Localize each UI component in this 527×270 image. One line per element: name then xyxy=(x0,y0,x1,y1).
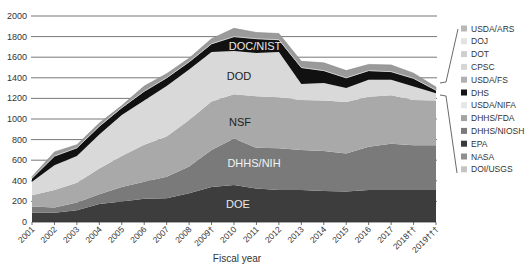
legend-swatch xyxy=(461,77,467,83)
y-tick-label: 200 xyxy=(12,196,27,206)
x-tick-label: 2002 xyxy=(38,224,59,245)
legend-item-usda-ars: USDA/ARS xyxy=(461,24,515,34)
legend-item-usda-nifa: USDA/NIFA xyxy=(461,100,516,110)
legend-swatch xyxy=(461,141,467,147)
area-label-doc-nist: DOC/NIST xyxy=(229,40,282,52)
legend-item-doj: DOJ xyxy=(461,36,488,46)
legend-bracket xyxy=(440,29,458,173)
legend-swatch xyxy=(461,64,467,70)
y-tick-label: 800 xyxy=(12,135,27,145)
legend-label: USDA/FS xyxy=(471,75,508,85)
legend: USDA/ARSDOJDOTCPSCUSDA/FSDHSUSDA/NIFADHH… xyxy=(461,24,524,175)
legend-label: DOI/USGS xyxy=(471,164,513,174)
legend-item-cpsc: CPSC xyxy=(461,62,495,72)
legend-item-dhhs-fda: DHHS/FDA xyxy=(461,113,515,123)
legend-label: DOT xyxy=(471,49,489,59)
legend-item-dhs: DHS xyxy=(461,88,489,98)
legend-item-nasa: NASA xyxy=(461,152,494,162)
x-tick-label: 2006 xyxy=(128,224,149,245)
x-tick-label: 2001 xyxy=(16,224,37,245)
legend-swatch xyxy=(461,38,467,44)
x-tick-label: 2013 xyxy=(285,224,306,245)
y-tick-label: 2000 xyxy=(7,11,27,21)
y-tick-label: 1800 xyxy=(7,32,27,42)
x-tick-label: 2009† xyxy=(192,224,216,248)
legend-label: DOJ xyxy=(471,36,488,46)
y-tick-label: 0 xyxy=(22,217,27,227)
y-axis: 0200400600800100012001400160018002000 xyxy=(7,11,27,227)
area-label-dhhs-nih: DHHS/NIH xyxy=(227,157,280,169)
legend-swatch xyxy=(461,154,467,160)
legend-item-dhhs-niosh: DHHS/NIOSH xyxy=(461,126,524,136)
x-tick-label: 2005 xyxy=(106,224,127,245)
legend-item-usda-fs: USDA/FS xyxy=(461,75,508,85)
legend-label: USDA/NIFA xyxy=(471,100,516,110)
area-label-dod: DOD xyxy=(227,70,252,82)
x-tick-label: 2014 xyxy=(308,224,329,245)
legend-item-epa: EPA xyxy=(461,139,488,149)
legend-label: NASA xyxy=(471,152,494,162)
y-tick-label: 1600 xyxy=(7,52,27,62)
x-tick-label: 2008 xyxy=(173,224,194,245)
legend-swatch xyxy=(461,166,467,172)
y-tick-label: 1400 xyxy=(7,73,27,83)
legend-swatch xyxy=(461,90,467,96)
x-tick-label: 2016 xyxy=(353,224,374,245)
x-tick-label: 2012 xyxy=(263,224,284,245)
legend-swatch xyxy=(461,128,467,134)
legend-label: EPA xyxy=(471,139,488,149)
area-label-nsf: NSF xyxy=(229,116,251,128)
legend-label: USDA/ARS xyxy=(471,24,515,34)
x-tick-label: 2010 xyxy=(218,224,239,245)
legend-item-doi-usgs: DOI/USGS xyxy=(461,164,513,174)
legend-swatch xyxy=(461,102,467,108)
legend-label: DHS xyxy=(471,88,489,98)
y-tick-label: 1200 xyxy=(7,93,27,103)
x-tick-label: 2004 xyxy=(83,224,104,245)
y-tick-label: 400 xyxy=(12,176,27,186)
area-label-doe: DOE xyxy=(226,198,250,210)
legend-item-dot: DOT xyxy=(461,49,489,59)
legend-label: DHHS/FDA xyxy=(471,113,515,123)
y-tick-label: 1000 xyxy=(7,114,27,124)
legend-swatch xyxy=(461,26,467,32)
x-axis-title: Fiscal year xyxy=(213,253,262,264)
y-tick-label: 600 xyxy=(12,155,27,165)
legend-swatch xyxy=(461,51,467,57)
x-tick-label: 2003 xyxy=(61,224,82,245)
stacked-area-chart: DOC/NISTDODNSFDHHS/NIHDOE 02004006008001… xyxy=(0,0,527,270)
legend-label: DHHS/NIOSH xyxy=(471,126,524,136)
x-axis: 200120022003200420052006200720082009†201… xyxy=(16,222,441,255)
legend-label: CPSC xyxy=(471,62,495,72)
x-tick-label: 2007 xyxy=(151,224,172,245)
x-tick-label: 2011 xyxy=(241,224,261,244)
x-tick-label: 2015 xyxy=(330,224,351,245)
legend-swatch xyxy=(461,115,467,121)
